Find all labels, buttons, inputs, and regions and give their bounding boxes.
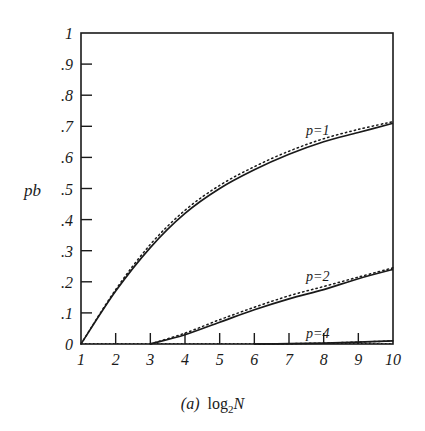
y-tick-label: .3 <box>61 243 73 260</box>
y-tick-label: .8 <box>61 87 73 104</box>
caption-log: log <box>208 395 228 412</box>
caption-variable: N <box>233 395 244 412</box>
chart: 0.1.2.3.4.5.6.7.8.91 12345678910 pb p=1 … <box>0 0 425 390</box>
plot-frame <box>81 33 393 344</box>
y-tick-label: .5 <box>61 181 73 198</box>
data-curves <box>81 122 393 344</box>
y-axis-ticks: 0.1.2.3.4.5.6.7.8.91 <box>61 25 92 353</box>
x-tick-label: 3 <box>145 351 154 368</box>
y-tick-label: .6 <box>61 149 73 166</box>
x-axis-caption: (a)log2N <box>0 395 425 415</box>
x-tick-label: 2 <box>112 351 120 368</box>
x-tick-label: 9 <box>354 351 362 368</box>
x-tick-label: 7 <box>285 351 294 368</box>
x-axis-ticks: 12345678910 <box>77 333 401 368</box>
y-tick-label: .2 <box>61 274 73 291</box>
curve-label-p2: p=2 <box>305 269 329 284</box>
x-tick-label: 1 <box>77 351 85 368</box>
curve-p-1-dotted <box>81 122 393 344</box>
y-axis-label: pb <box>23 181 41 200</box>
y-tick-label: 0 <box>65 336 73 353</box>
y-tick-label: .1 <box>61 305 73 322</box>
x-tick-label: 8 <box>320 351 328 368</box>
x-tick-label: 5 <box>216 351 224 368</box>
y-tick-label: .4 <box>61 212 73 229</box>
y-tick-label: 1 <box>65 25 73 42</box>
x-tick-label: 6 <box>250 351 258 368</box>
curve-label-p1: p=1 <box>305 123 329 138</box>
x-tick-label: 10 <box>385 351 401 368</box>
curve-p-1 <box>81 123 393 344</box>
caption-tag: (a) <box>181 395 200 412</box>
y-tick-label: .9 <box>61 56 73 73</box>
axes-frame <box>81 33 393 344</box>
x-tick-label: 4 <box>181 351 189 368</box>
curve-label-p4: p=4 <box>305 326 329 341</box>
y-tick-label: .7 <box>61 118 74 135</box>
